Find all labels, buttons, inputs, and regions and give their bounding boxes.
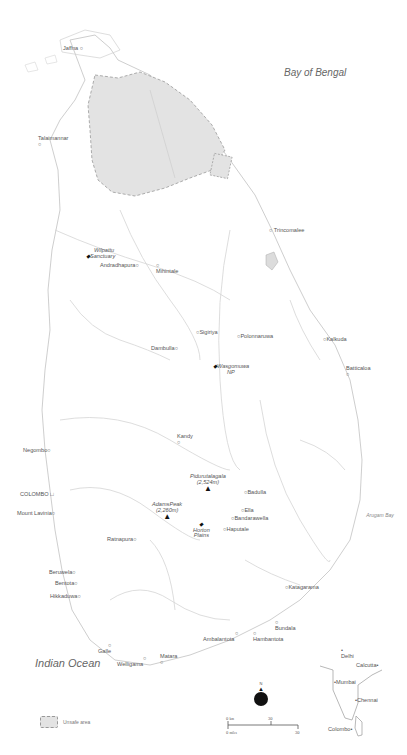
peak-pidurutalagala: Pidurutalagala(2,524m) ▲ — [190, 474, 226, 493]
sea-label-indian-ocean: Indian Ocean — [35, 657, 100, 669]
sea-label-bay-of-bengal: Bay of Bengal — [284, 67, 346, 78]
city-galle: ○Galle — [98, 643, 111, 654]
city-negombo: Negombo○ — [23, 448, 51, 454]
park-wasgomuwa: ◆Wasgomuwa NP — [213, 364, 249, 375]
city-talaimannar: Talaimannar○ — [38, 136, 68, 147]
city-batticaloa: Batticaloa○ — [346, 366, 371, 377]
city-badulla: ○Badulla — [244, 490, 266, 496]
mountain-triangle-icon: ▲ — [204, 484, 212, 493]
city-hikkaduwa: Hikkaduwa○ — [50, 594, 81, 600]
city-jaffna: Jaffna ○ — [63, 46, 83, 52]
unsafe-area-swatch — [40, 716, 58, 728]
city-andradhapura: Andradhapura○ — [100, 263, 139, 269]
inset-city-calcutta: Calcutta• — [356, 663, 379, 669]
city-hambantota: ○Hambantota — [253, 631, 283, 642]
city-bandarawella: ○Bandarawella — [231, 516, 268, 522]
map-legend: Unsafe area — [40, 716, 90, 728]
city-beruwela: Beruwela○ — [49, 570, 76, 576]
sea-label-arugam-bay: Arugam Bay — [365, 513, 395, 519]
north-arrow-icon: ▲ — [254, 686, 268, 692]
scale-km-value: 30 — [268, 716, 273, 721]
city-welligama: ○Welligama — [117, 656, 146, 667]
city-kandy: Kandy○ — [177, 434, 193, 445]
inset-city-chennai: •Chennai — [355, 698, 378, 704]
city-mihintale: ○Mihintale — [156, 263, 178, 274]
city-ella: ○Ella — [241, 508, 254, 514]
unsafe-area-north — [88, 72, 225, 196]
city-sigiriya: ○Sigiriya — [196, 330, 218, 336]
city-matara: Matara○ — [160, 654, 177, 665]
city-ambalantota: ○Ambalantota — [203, 631, 238, 642]
mountain-triangle-icon: ▲ — [163, 512, 171, 521]
park-horton-plains: ◆ HortonPlains — [193, 522, 210, 539]
scale-miles-zero: 0 miles — [226, 730, 237, 735]
city-trincomalee: ○ Trincomalee — [269, 228, 304, 234]
inset-city-mumbai: •Mumbai — [334, 680, 356, 686]
peak-adams-peak: AdamsPeak(2,260m) ▲ — [152, 502, 182, 521]
legend-label-unsafe-area: Unsafe area — [63, 719, 90, 725]
scale-km-zero: 0 km — [226, 716, 234, 721]
compass-circle-icon — [254, 692, 268, 706]
inset-city-colombo: Colombo• — [328, 727, 352, 733]
park-wilpattu: Wilpattu ◆Sanctuary — [86, 248, 115, 259]
compass-rose: N ▲ — [254, 682, 268, 706]
city-bundala: ○Bundala — [275, 620, 296, 631]
city-polonnaruwa: ○Polonnaruwa — [237, 334, 273, 340]
scale-bar — [228, 721, 298, 729]
city-kalkuda: ○Kalkuda — [323, 337, 347, 343]
city-katagarama: ○Katagarama — [285, 585, 319, 591]
city-bentota: Bentota○ — [55, 581, 78, 587]
city-ratnapura: Ratnapura○ — [107, 537, 137, 543]
scale-miles-value: 30 — [295, 730, 300, 735]
city-mount-lavinia: Mount Lavinia○ — [17, 511, 55, 517]
city-colombo: COLOMBO □ — [20, 492, 54, 498]
city-haputale: ○Haputale — [223, 527, 249, 533]
inset-city-delhi: •Delhi — [341, 648, 354, 659]
city-dambulla: Dambulla○ — [151, 346, 178, 352]
